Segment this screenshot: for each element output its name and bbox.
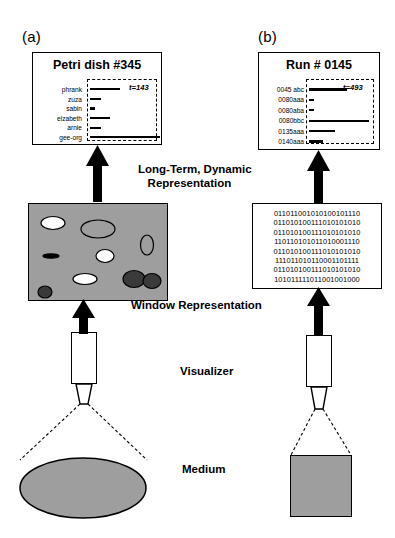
connector-layer — [0, 0, 395, 538]
row-label: phrank — [34, 86, 82, 93]
row-bar — [90, 88, 120, 90]
row-bar — [309, 109, 314, 111]
row-bar — [90, 98, 101, 100]
row-bar — [90, 127, 101, 129]
row-label: 0080aba — [256, 107, 304, 114]
row-bar — [90, 117, 110, 119]
arrow-visualizer-to-binary-right — [307, 287, 330, 336]
row-label: 0045 abc — [256, 86, 304, 93]
light-path-left — [20, 404, 147, 460]
row-label: 0140aaa — [256, 138, 304, 145]
figure-canvas: (a) (b) Petri dish #345 t=143 Run # 0145… — [0, 0, 395, 538]
row-label: elzabeth — [34, 115, 82, 122]
row-bar — [90, 136, 160, 138]
arrow-window-to-panel-a — [86, 145, 109, 202]
row-bar — [309, 130, 335, 132]
light-path-right — [291, 409, 351, 455]
arrow-binary-to-panel-b — [307, 150, 330, 203]
row-label: 0080bbc — [256, 117, 304, 124]
row-label: gee-org — [34, 134, 82, 141]
row-label: 0135aaa — [256, 128, 304, 135]
row-bar — [309, 120, 369, 122]
row-bar — [90, 107, 95, 109]
row-bar — [309, 140, 323, 142]
row-label: sabin — [34, 105, 82, 112]
arrow-visualizer-to-window-left — [72, 299, 95, 334]
lens-cone-left — [76, 384, 92, 404]
medium-ellipse-left — [20, 458, 146, 518]
lens-cone-right — [311, 387, 327, 409]
row-bar — [309, 99, 314, 101]
row-label: zuza — [34, 96, 82, 103]
row-bar — [309, 88, 347, 90]
row-label: 0080aaa — [256, 96, 304, 103]
row-label: arnie — [34, 124, 82, 131]
